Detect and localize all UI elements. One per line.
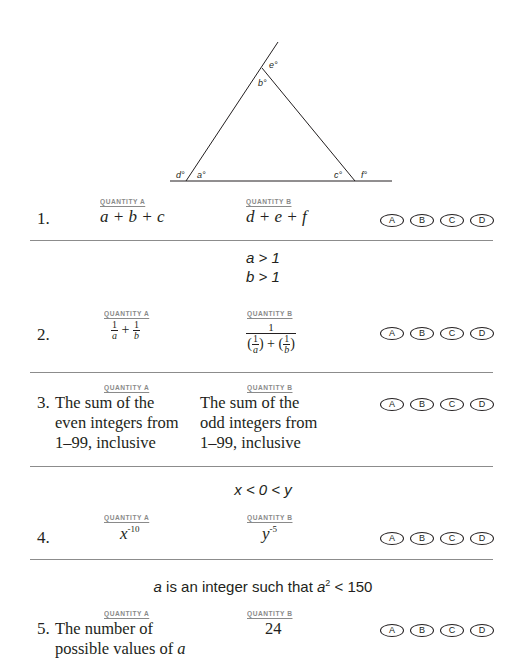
quantity-b-header: QUANTITY B (247, 309, 292, 318)
choice-d-bubble[interactable]: D (470, 214, 494, 227)
question-number: 4. (37, 528, 50, 548)
denominator: (1a) + (1b) (246, 334, 296, 355)
choice-b-bubble[interactable]: B (410, 327, 434, 340)
choice-a-bubble[interactable]: A (380, 532, 404, 545)
choice-c-bubble[interactable]: C (440, 398, 464, 411)
angle-label-a: a° (197, 170, 206, 180)
angle-label-d: d° (176, 170, 185, 180)
quantity-b-value: The sum of the odd integers from 1–99, i… (200, 393, 320, 453)
divider (30, 372, 493, 373)
answer-choices: A B C D (380, 398, 494, 411)
quantity-a-value: The sum of the even integers from 1–99, … (55, 393, 185, 453)
quantity-b-header: QUANTITY B (246, 197, 291, 206)
question-number: 3. (37, 393, 50, 413)
angle-label-e: e° (269, 60, 278, 70)
left-side (186, 42, 278, 181)
quantity-a-value: 1a + 1b (111, 320, 140, 341)
quantity-b-header: QUANTITY B (247, 383, 292, 392)
fraction-1-over-a: 1a (111, 320, 118, 341)
divider (30, 240, 493, 241)
quantity-b-header: QUANTITY B (247, 513, 292, 522)
fraction-1-over-b: 1b (133, 320, 140, 341)
choice-d-bubble[interactable]: D (470, 327, 494, 340)
choice-c-bubble[interactable]: C (440, 624, 464, 637)
choice-d-bubble[interactable]: D (470, 398, 494, 411)
choice-a-bubble[interactable]: A (380, 624, 404, 637)
choice-a-bubble[interactable]: A (380, 398, 404, 411)
choice-d-bubble[interactable]: D (470, 532, 494, 545)
quantity-a-header: QUANTITY A (104, 383, 149, 392)
quantity-b-value: 1 (1a) + (1b) (246, 321, 296, 355)
answer-choices: A B C D (380, 214, 494, 227)
choice-c-bubble[interactable]: C (440, 327, 464, 340)
answer-choices: A B C D (380, 327, 494, 340)
quantity-a-value: a + b + c (100, 207, 165, 227)
question-number: 1. (37, 209, 50, 229)
choice-c-bubble[interactable]: C (440, 532, 464, 545)
quantity-a-header: QUANTITY A (104, 609, 149, 618)
quantity-a-value: x-10 (120, 524, 140, 544)
angle-label-f: f° (361, 170, 368, 180)
question-number: 2. (37, 325, 50, 345)
choice-b-bubble[interactable]: B (410, 214, 434, 227)
choice-c-bubble[interactable]: C (440, 214, 464, 227)
right-side (262, 68, 355, 181)
condition-line-2: b > 1 (213, 267, 313, 286)
answer-choices: A B C D (380, 624, 494, 637)
choice-a-bubble[interactable]: A (380, 327, 404, 340)
quantity-a-header: QUANTITY A (104, 309, 149, 318)
quantity-a-value: The number of possible values of a (55, 619, 205, 659)
quantity-b-header: QUANTITY B (247, 609, 292, 618)
quantity-b-value: 24 (265, 619, 282, 639)
choice-b-bubble[interactable]: B (410, 624, 434, 637)
choice-d-bubble[interactable]: D (470, 624, 494, 637)
choice-a-bubble[interactable]: A (380, 214, 404, 227)
triangle-figure: e° b° d° a° c° f° (0, 0, 526, 195)
divider (30, 466, 493, 467)
condition-line-1: a > 1 (213, 248, 313, 267)
condition: x < 0 < y (213, 480, 313, 499)
angle-label-c: c° (334, 170, 343, 180)
choice-b-bubble[interactable]: B (410, 532, 434, 545)
divider (30, 559, 493, 560)
condition: a is an integer such that a2 < 150 (140, 574, 386, 596)
answer-choices: A B C D (380, 532, 494, 545)
condition: a > 1 b > 1 (213, 248, 313, 286)
quantity-b-value: d + e + f (246, 207, 307, 227)
angle-label-b: b° (258, 78, 267, 88)
quantity-a-header: QUANTITY A (100, 197, 145, 206)
quantity-b-value: y-5 (262, 524, 277, 544)
choice-b-bubble[interactable]: B (410, 398, 434, 411)
quantity-a-header: QUANTITY A (104, 513, 149, 522)
plus-operator: + (122, 322, 130, 337)
question-number: 5. (37, 619, 50, 639)
